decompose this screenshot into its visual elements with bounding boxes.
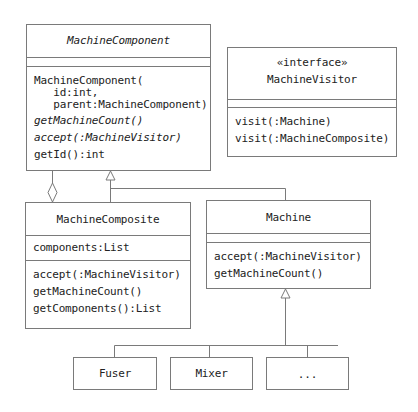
operation: getComponents():List	[33, 302, 161, 315]
operation: getId():int	[34, 148, 105, 161]
class-machine: Machine accept(:MachineVisitor) getMachi…	[206, 200, 371, 289]
class-mixer: Mixer	[170, 357, 253, 390]
inheritance-triangle-icon	[106, 171, 115, 180]
class-name: Machine	[207, 211, 370, 224]
class-name: MachineVisitor	[228, 73, 396, 86]
class-fuser: Fuser	[73, 357, 157, 390]
operation: accept(:MachineVisitor)	[34, 131, 182, 144]
operation: parent:MachineComponent)	[34, 98, 207, 111]
aggregation-diamond-icon	[48, 183, 57, 202]
operation: getMachineCount()	[214, 267, 323, 280]
interface-machine-visitor: «interface» MachineVisitor visit(:Machin…	[227, 47, 397, 157]
operations-divider	[207, 242, 370, 243]
class-name: Mixer	[171, 367, 252, 380]
operations-divider	[27, 66, 210, 67]
class-name: ...	[267, 368, 348, 381]
class-ellipsis: ...	[266, 357, 349, 390]
operation: visit(:MachineComposite)	[235, 132, 389, 145]
attribute: components:List	[33, 241, 129, 254]
attributes-divider	[207, 233, 370, 234]
operation: visit(:Machine)	[235, 115, 331, 128]
class-name: Fuser	[74, 367, 156, 380]
class-name: MachineComponent	[27, 34, 210, 47]
operations-divider	[228, 107, 396, 108]
inheritance-triangle-icon	[281, 289, 290, 298]
operation: accept(:MachineVisitor)	[214, 250, 362, 263]
operation: getMachineCount()	[34, 114, 143, 127]
attributes-divider	[26, 235, 190, 236]
class-name: MachineComposite	[26, 213, 190, 226]
operations-divider	[26, 260, 190, 261]
operation: accept(:MachineVisitor)	[33, 268, 181, 281]
class-machine-composite: MachineComposite components:List accept(…	[25, 202, 191, 329]
stereotype: «interface»	[228, 56, 396, 69]
attributes-divider	[228, 99, 396, 100]
class-machine-component: MachineComponent MachineComponent( id:in…	[26, 24, 211, 171]
attributes-divider	[27, 57, 210, 58]
operation: getMachineCount()	[33, 285, 142, 298]
